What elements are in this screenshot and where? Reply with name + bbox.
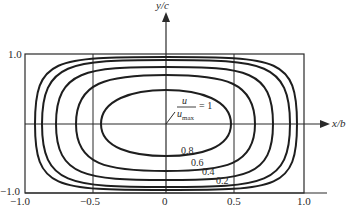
y-axis-label: y/c <box>156 0 169 11</box>
x-tick-1: 1.0 <box>297 196 311 207</box>
ratio-denominator: umax <box>177 109 194 122</box>
x-tick-0: 0 <box>162 196 168 207</box>
ratio-equals: = 1 <box>199 101 212 111</box>
x-tick-neg-1: −1.0 <box>10 196 30 207</box>
ratio-numerator: u <box>182 96 187 106</box>
contour-label-0-8: 0.8 <box>181 146 194 156</box>
y-axis-arrow-icon <box>162 12 170 22</box>
contour-label-0-2: 0.2 <box>216 176 229 186</box>
contour-diagram <box>0 0 349 214</box>
x-axis-label: x/b <box>332 118 345 129</box>
x-tick-neg-0-5: −0.5 <box>80 196 100 207</box>
ratio-leader-line <box>166 112 175 124</box>
ratio-denominator-sub: max <box>182 114 194 122</box>
x-tick-0-5: 0.5 <box>227 196 241 207</box>
y-tick-top: 1.0 <box>8 49 22 60</box>
x-axis-arrow-icon <box>320 120 330 128</box>
contour-label-0-4: 0.4 <box>202 167 215 177</box>
